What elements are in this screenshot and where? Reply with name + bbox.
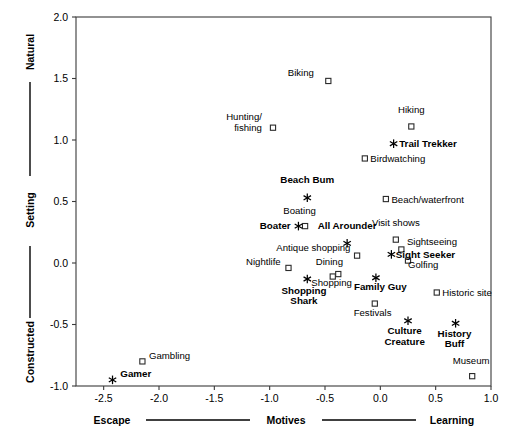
y-tick-label-0: -1.0 (50, 380, 68, 392)
point-label-gamer: Gamer (120, 368, 151, 379)
point-label-culture-creature: CultureCreature (385, 325, 426, 346)
point-label-historic-site: Historic site (442, 287, 492, 298)
point-label-beach-waterfront: Beach/waterfront (391, 194, 464, 205)
point-label-visit-shows: Visit shows (372, 217, 420, 228)
point-label-beach-bum: Beach Bum (280, 174, 334, 185)
marker-hunting-fishing[interactable] (270, 125, 275, 130)
marker-boater[interactable] (295, 222, 302, 231)
y-axis-anchor-low: Constructed (24, 321, 36, 383)
x-tick-label-7: 1.0 (484, 392, 499, 404)
marker-festivals[interactable] (372, 301, 377, 306)
marker-beach-bum[interactable] (304, 194, 311, 203)
marker-shopping[interactable] (336, 271, 341, 276)
marker-history-buff[interactable] (452, 319, 459, 328)
marker-boating[interactable] (302, 224, 307, 229)
point-label-golfing: Golfing (408, 259, 438, 270)
point-label-gambling: Gambling (149, 350, 190, 361)
point-label-hunting-fishing: Hunting/fishing (226, 111, 262, 132)
marker-nightlife[interactable] (286, 265, 291, 270)
y-tick-label-3: 0.5 (53, 195, 68, 207)
point-label-sightseeing: Sightseeing (407, 236, 457, 247)
point-label-nightlife: Nightlife (246, 256, 281, 267)
marker-birdwatching[interactable] (362, 156, 367, 161)
x-tick-label-3: -1.0 (261, 392, 279, 404)
y-tick-label-2: 0.0 (53, 257, 68, 269)
x-axis-anchor-high: Learning (430, 414, 474, 426)
point-label-trail-trekker: Trail Trekker (399, 138, 457, 149)
marker-trail-trekker[interactable] (390, 139, 397, 148)
x-tick-label-0: -2.5 (95, 392, 113, 404)
x-tick-label-5: 0.0 (373, 392, 388, 404)
x-axis-label: Motives (266, 414, 305, 426)
point-label-boater: Boater (260, 220, 291, 231)
marker-gamer[interactable] (109, 376, 116, 385)
x-tick-label-4: -0.5 (316, 392, 334, 404)
y-tick-label-1: -0.5 (50, 318, 68, 330)
point-label-hiking: Hiking (398, 104, 425, 115)
point-label-antique-shopping: Antique shopping (276, 242, 350, 253)
point-label-birdwatching: Birdwatching (370, 153, 425, 164)
marker-beach-waterfront[interactable] (383, 196, 388, 201)
marker-sight-seeker[interactable] (388, 250, 395, 259)
point-label-sight-seeker: Sight Seeker (396, 249, 456, 260)
marker-culture-creature[interactable] (404, 317, 411, 326)
point-label-biking: Biking (288, 67, 314, 78)
x-tick-label-6: 0.5 (428, 392, 443, 404)
y-tick-label-6: 2.0 (53, 11, 68, 23)
y-tick-label-4: 1.0 (53, 134, 68, 146)
marker-museum[interactable] (470, 374, 475, 379)
scatter-plot-canvas: -2.5-2.0-1.5-1.0-0.50.00.51.0-1.0-0.50.0… (0, 0, 512, 446)
y-axis-anchor-high: Natural (24, 34, 36, 70)
marker-biking[interactable] (326, 78, 331, 83)
point-label-all-arounder: All Arounder (318, 220, 377, 231)
y-axis-label: Setting (24, 192, 36, 228)
point-label-dining: Dining (316, 256, 343, 267)
marker-hiking[interactable] (409, 124, 414, 129)
x-axis-anchor-low: Escape (94, 414, 131, 426)
marker-gambling[interactable] (140, 359, 145, 364)
point-label-family-guy: Family Guy (354, 281, 407, 292)
point-label-history-buff: HistoryBuff (438, 328, 472, 349)
x-tick-label-1: -2.0 (150, 392, 168, 404)
point-label-shopping-shark: ShoppingShark (281, 285, 326, 306)
marker-historic-site[interactable] (434, 290, 439, 295)
perceptual-map-chart: -2.5-2.0-1.5-1.0-0.50.00.51.0-1.0-0.50.0… (0, 0, 512, 446)
marker-antique-shopping[interactable] (354, 253, 359, 258)
y-tick-label-5: 1.5 (53, 72, 68, 84)
marker-shopping-shark[interactable] (304, 275, 311, 284)
point-label-boating: Boating (283, 205, 316, 216)
point-label-festivals: Festivals (354, 307, 392, 318)
x-tick-label-2: -1.5 (205, 392, 223, 404)
marker-visit-shows[interactable] (393, 237, 398, 242)
point-label-museum: Museum (453, 355, 490, 366)
